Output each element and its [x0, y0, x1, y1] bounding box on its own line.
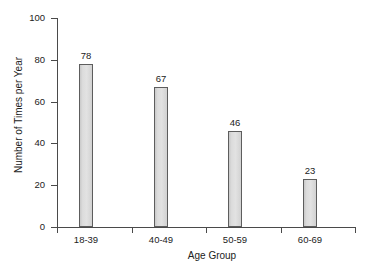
y-axis-line	[57, 18, 58, 228]
x-axis-tick	[355, 227, 356, 233]
bar-value-label: 78	[66, 51, 106, 61]
x-axis-title: Age Group	[0, 250, 367, 262]
x-axis-category-label: 50-59	[200, 234, 270, 245]
bar	[228, 131, 242, 227]
y-axis-tick	[51, 18, 57, 19]
x-axis-category-label: 40-49	[126, 234, 196, 245]
bar-value-label: 23	[290, 166, 330, 176]
y-axis-tick	[51, 102, 57, 103]
bar-value-label: 67	[141, 74, 181, 84]
bar	[303, 179, 317, 227]
y-axis-tick	[51, 143, 57, 144]
y-axis-tick	[51, 185, 57, 186]
x-axis-tick	[57, 227, 58, 233]
bar-chart: 020406080100 18-3940-4950-5960-69 786746…	[0, 0, 367, 272]
x-axis-tick	[206, 227, 207, 233]
x-axis-category-label: 60-69	[275, 234, 345, 245]
y-axis-tick	[51, 60, 57, 61]
bar	[154, 87, 168, 227]
x-axis-category-label: 18-39	[51, 234, 121, 245]
x-axis-tick	[132, 227, 133, 233]
bar	[79, 64, 93, 227]
x-axis-tick	[281, 227, 282, 233]
bar-value-label: 46	[215, 118, 255, 128]
y-axis-title: Number of Times per Year	[12, 0, 26, 230]
